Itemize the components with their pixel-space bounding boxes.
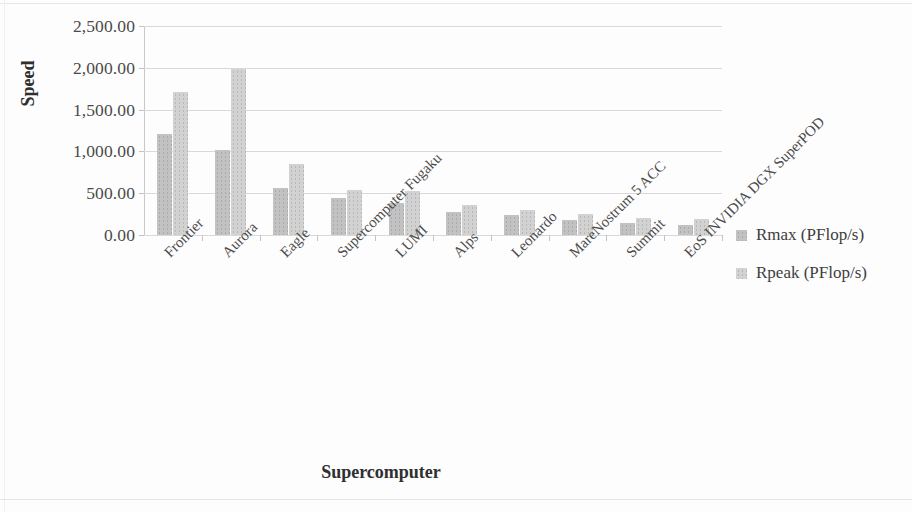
y-axis-title: Speed [18,79,39,107]
bar[interactable] [215,150,230,235]
y-axis-tick [139,26,144,27]
chart-legend: Rmax (PFlop/s)Rpeak (PFlop/s) [736,225,912,301]
bar-group [273,26,304,235]
bar[interactable] [678,225,693,235]
x-axis-tick [664,235,665,241]
y-axis-tick [139,151,144,152]
legend-item[interactable]: Rpeak (PFlop/s) [736,263,912,283]
scan-edge-left [4,0,5,512]
legend-swatch-icon [736,268,747,279]
scan-edge-bottom [0,499,912,500]
y-axis-tick [139,110,144,111]
y-axis-tick-label: 2,000.00 [73,57,135,78]
x-axis-tick [202,235,203,241]
bar[interactable] [504,215,519,235]
scan-edge-top [0,3,912,4]
x-axis-title: Supercomputer [0,462,762,483]
bar-group [562,26,593,235]
bar-group [678,26,709,235]
x-axis-tick [375,235,376,241]
bar-group [504,26,535,235]
bar[interactable] [173,92,188,235]
bar-group [446,26,477,235]
x-axis-tick [549,235,550,241]
y-axis-tick-label: 0.00 [104,225,135,246]
y-axis-tick-label: 2,500.00 [73,16,135,37]
legend-swatch-icon [736,230,747,241]
y-axis-line [144,26,145,235]
bar[interactable] [231,69,246,235]
x-axis-tick [260,235,261,241]
x-axis-tick [722,235,723,241]
legend-item[interactable]: Rmax (PFlop/s) [736,225,912,245]
bar[interactable] [157,134,172,235]
bar-group [331,26,362,235]
x-axis-tick [491,235,492,241]
bar[interactable] [620,223,635,235]
chart-page: Speed 0.00500.001,000.001,500.002,000.00… [0,0,912,512]
bar[interactable] [289,164,304,235]
y-axis-tick-label: 1,000.00 [73,141,135,162]
bar-group [215,26,246,235]
y-axis-tick [139,193,144,194]
legend-label: Rpeak (PFlop/s) [756,263,867,283]
y-axis-tick [139,68,144,69]
x-axis-tick [317,235,318,241]
y-axis-tick [139,235,144,236]
bar-group [157,26,188,235]
legend-label: Rmax (PFlop/s) [756,225,864,245]
bar[interactable] [273,188,288,235]
y-axis-tick-label: 500.00 [86,183,135,204]
x-axis-tick [606,235,607,241]
y-axis-tick-label: 1,500.00 [73,99,135,120]
bar[interactable] [562,220,577,235]
bar[interactable] [446,212,461,235]
x-axis-tick [433,235,434,241]
bar[interactable] [331,198,346,235]
